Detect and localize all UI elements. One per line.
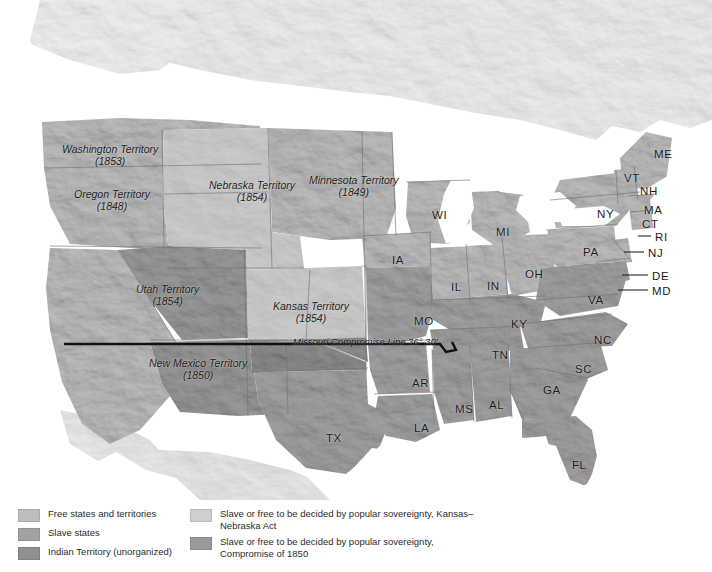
- map-legend: Free states and territoriesSlave statesI…: [0, 500, 712, 572]
- legend-label: Free states and territories: [48, 508, 156, 520]
- legend-column-left: Free states and territoriesSlave statesI…: [18, 508, 188, 565]
- legend-swatch-compromise-1850: [190, 537, 212, 550]
- legend-item: Slave or free to be decided by popular s…: [190, 508, 490, 531]
- legend-label: Slave states: [48, 527, 100, 539]
- legend-label: Slave or free to be decided by popular s…: [220, 536, 490, 559]
- relief-base-map: [0, 0, 712, 572]
- map-canvas: MEVTNHMACTRINJDEMDNYPAVANCSCGAFLALMSLAAR…: [0, 0, 712, 572]
- legend-swatch-free: [18, 509, 40, 522]
- legend-swatch-indian: [18, 547, 40, 560]
- legend-swatch-kansas-nebraska: [190, 509, 212, 522]
- legend-label: Indian Territory (unorganized): [48, 546, 172, 558]
- legend-item: Free states and territories: [18, 508, 188, 522]
- legend-label: Slave or free to be decided by popular s…: [220, 508, 490, 531]
- legend-item: Indian Territory (unorganized): [18, 546, 188, 560]
- legend-item: Slave or free to be decided by popular s…: [190, 536, 490, 559]
- legend-swatch-slave: [18, 528, 40, 541]
- legend-item: Slave states: [18, 527, 188, 541]
- legend-column-right: Slave or free to be decided by popular s…: [190, 508, 490, 564]
